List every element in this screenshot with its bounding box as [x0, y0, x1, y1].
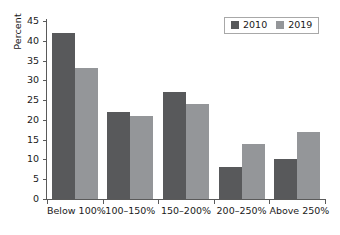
x-tick-label: Above 250% [269, 205, 325, 216]
bar-2019-100-150- [130, 116, 153, 199]
y-tick-label: 45 [27, 15, 39, 26]
legend: 2010 2019 [224, 17, 319, 34]
x-tick-label: Below 100% [47, 205, 103, 216]
y-tick-mark [43, 179, 47, 180]
y-tick-mark [43, 159, 47, 160]
bar-2019-200-250- [242, 144, 265, 199]
y-tick-label: 25 [27, 94, 39, 105]
y-tick-label: 5 [33, 173, 39, 184]
legend-swatch-icon-2010 [231, 21, 239, 29]
legend-label-2010: 2010 [243, 20, 267, 30]
legend-item-2019: 2019 [276, 20, 312, 30]
y-tick-mark [43, 80, 47, 81]
legend-swatch-icon-2019 [276, 21, 284, 29]
plot-area: 051015202530354045 [47, 21, 325, 199]
y-tick-mark [43, 100, 47, 101]
bar-2010-150-200- [163, 92, 186, 199]
x-tick-mark [269, 199, 270, 204]
x-tick-mark [158, 199, 159, 204]
x-tick-mark [325, 199, 326, 204]
y-tick-label: 40 [27, 35, 39, 46]
y-axis-title: Percent [12, 0, 23, 67]
legend-item-2010: 2010 [231, 20, 267, 30]
x-tick-mark [103, 199, 104, 204]
bar-2010-200-250- [219, 167, 242, 199]
y-tick-label: 30 [27, 74, 39, 85]
y-tick-mark [43, 41, 47, 42]
bar-2010-below-100- [52, 33, 75, 199]
bar-2010-above-250- [274, 159, 297, 199]
y-tick-label: 0 [33, 193, 39, 204]
y-tick-label: 20 [27, 114, 39, 125]
x-tick-label: 150–200% [158, 205, 214, 216]
x-tick-label: 100–150% [103, 205, 159, 216]
y-tick-mark [43, 140, 47, 141]
y-tick-mark [43, 21, 47, 22]
bar-2019-150-200- [186, 104, 209, 199]
bar-2019-below-100- [75, 68, 98, 199]
bar-2010-100-150- [107, 112, 130, 199]
x-tick-mark [214, 199, 215, 204]
x-axis-line [46, 199, 325, 200]
y-tick-mark [43, 61, 47, 62]
x-tick-label: 200–250% [214, 205, 270, 216]
bar-chart: Percent 051015202530354045 2010 2019 Bel… [0, 0, 340, 235]
y-tick-label: 10 [27, 153, 39, 164]
y-tick-label: 15 [27, 134, 39, 145]
y-tick-label: 35 [27, 55, 39, 66]
legend-label-2019: 2019 [288, 20, 312, 30]
y-tick-mark [43, 120, 47, 121]
bar-2019-above-250- [297, 132, 320, 199]
x-tick-mark [47, 199, 48, 204]
